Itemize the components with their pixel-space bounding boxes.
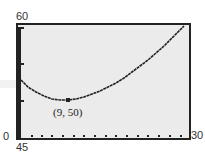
y-min-label: 0 [3,131,9,142]
minimum-point-marker [66,98,70,102]
y-tick [21,100,24,102]
x-axis-dots [31,135,182,137]
y-tick [21,63,24,65]
y-axis-top-tick [21,27,24,29]
y-max-label: 60 [16,11,28,22]
y-axis [18,27,21,138]
graph-plot [18,25,189,138]
background-smudge [0,80,16,88]
x-min-label: 45 [16,142,28,153]
calculator-graph-screen: (9, 50) [16,23,191,140]
x-max-label: 30 [191,130,203,141]
minimum-point-label: (9, 50) [53,106,82,118]
function-curve [21,26,184,100]
